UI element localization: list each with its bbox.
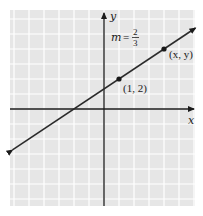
x-axis-label: x [188,114,195,127]
svg-text:=: = [123,31,129,43]
grid-background [10,10,195,206]
svg-text:2: 2 [133,27,138,37]
svg-text:3: 3 [133,38,138,48]
svg-text:m: m [111,31,121,44]
point-x-y [161,46,166,51]
y-axis-label: y [109,10,117,23]
point-1-2 [116,76,121,81]
point-x-y-label: (x, y) [169,48,193,61]
coordinate-plane: x y (1, 2) (x, y) m = 2 3 [0,0,203,216]
point-1-2-label: (1, 2) [123,82,147,95]
